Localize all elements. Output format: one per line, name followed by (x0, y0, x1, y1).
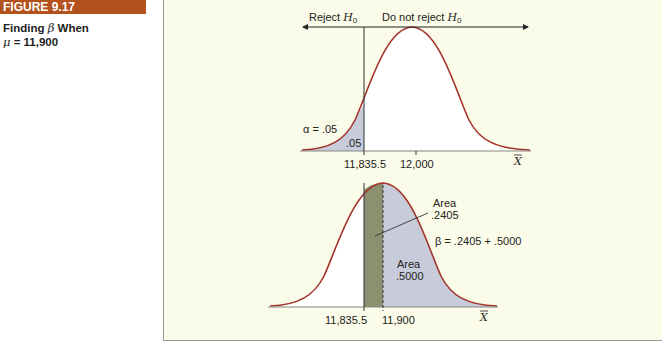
reject-label: Reject H0 (309, 11, 358, 25)
beta-label: β = .2405 + .5000 (435, 235, 521, 247)
tail-area-label: .05 (346, 137, 361, 149)
do-not-reject-label: Do not reject H0 (382, 11, 462, 25)
bottom-area-2405 (364, 183, 383, 307)
bottom-xbar-label: X (479, 311, 489, 324)
bottom-chart: Area .2405 Area .5000 β = .2405 + .5000 … (268, 183, 521, 326)
hypothesis-test-diagrams: Reject H0 Do not reject H0 α = .05 .05 1… (0, 0, 662, 342)
area-value-5000: .5000 (396, 270, 424, 282)
top-tick-mean: 12,000 (400, 158, 434, 170)
bottom-tick-mean: 11,900 (382, 314, 415, 326)
top-chart: Reject H0 Do not reject H0 α = .05 .05 1… (300, 11, 531, 170)
top-tick-critical: 11,835.5 (344, 158, 386, 170)
area-word-2: Area (397, 258, 421, 270)
area-value-2405: .2405 (431, 209, 459, 221)
bottom-tick-critical: 11,835.5 (325, 314, 367, 326)
alpha-label: α = .05 (303, 123, 337, 135)
top-xbar-label: X (513, 155, 523, 168)
area-word-1: Area (433, 197, 457, 209)
